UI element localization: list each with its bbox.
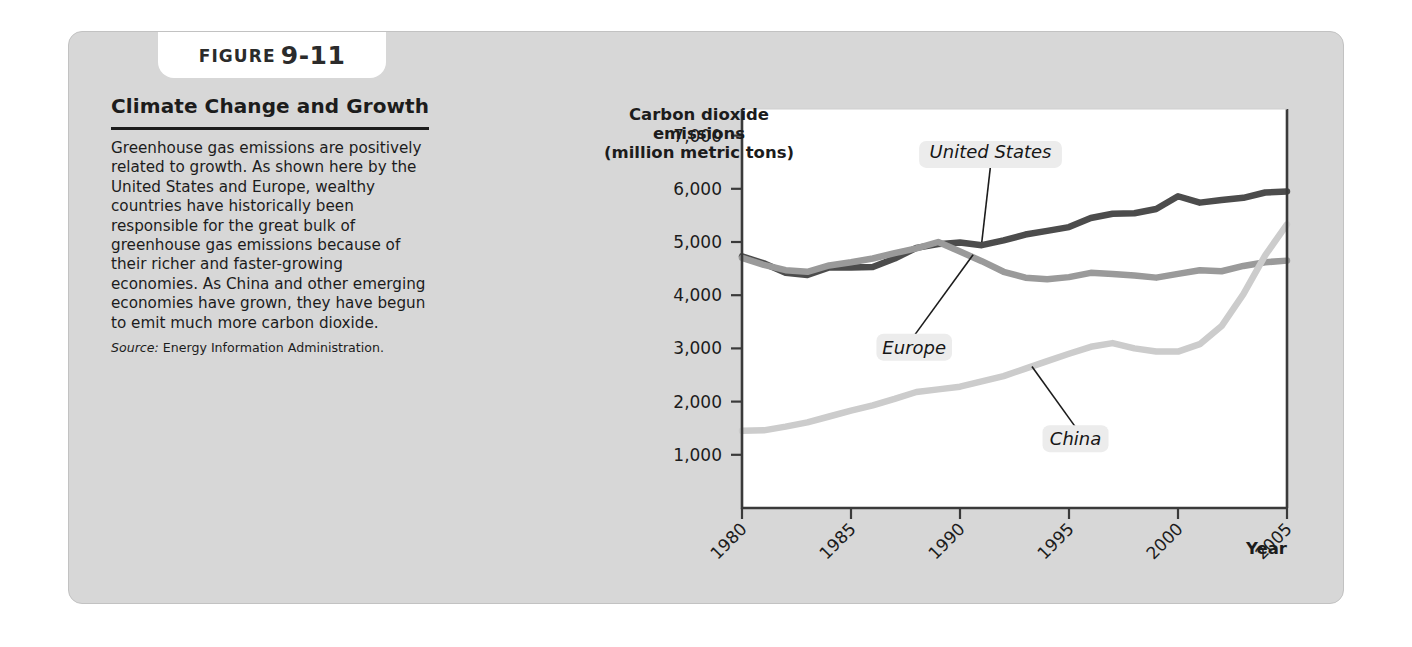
annotation-label-united-states: United States xyxy=(930,141,1052,162)
figure-card: FIGURE 9-11 Climate Change and Growth Gr… xyxy=(68,31,1344,604)
y-tick-label: 7,000 xyxy=(673,126,722,146)
figure-text-column: Climate Change and Growth Greenhouse gas… xyxy=(111,94,431,355)
y-axis-title-line: (million metric tons) xyxy=(604,143,794,162)
annotation-box-europe xyxy=(876,334,952,361)
x-tick-label: 1985 xyxy=(815,519,860,564)
y-tick-label: 3,000 xyxy=(673,338,722,358)
series-line-china xyxy=(742,224,1287,430)
x-tick-label: 1990 xyxy=(924,519,969,564)
y-axis-ticks: 1,0002,0003,0004,0005,0006,0007,000 xyxy=(673,126,742,465)
leader-line-united-states xyxy=(982,166,991,242)
x-tick-label: 2000 xyxy=(1142,519,1187,564)
figure-number-label: FIGURE 9-11 xyxy=(158,41,386,70)
plot-background xyxy=(742,109,1287,508)
axes-group xyxy=(742,109,1287,508)
y-tick-label: 2,000 xyxy=(673,392,722,412)
page-title: Climate Change and Growth xyxy=(111,94,431,118)
y-axis-title-line: Carbon dioxide xyxy=(629,105,769,124)
y-tick-label: 4,000 xyxy=(673,285,722,305)
y-tick-label: 5,000 xyxy=(673,232,722,252)
y-tick-label: 1,000 xyxy=(673,445,722,465)
figure-word: FIGURE xyxy=(199,46,276,66)
y-axis-title-line: emissions xyxy=(653,124,745,143)
annotation-box-united-states xyxy=(919,141,1062,168)
figure-number: 9-11 xyxy=(281,41,346,70)
y-axis-title: Carbon dioxideemissions(million metric t… xyxy=(604,105,794,162)
title-divider xyxy=(111,127,429,130)
annotation-label-europe: Europe xyxy=(882,337,946,358)
leader-line-europe xyxy=(914,255,973,336)
source-label: Source: xyxy=(111,340,159,355)
leader-line-china xyxy=(1032,366,1076,427)
x-tick-label: 1995 xyxy=(1033,519,1078,564)
x-axis-ticks: 198019851990199520002005 xyxy=(706,508,1296,563)
y-tick-label: 6,000 xyxy=(673,179,722,199)
axis-lines xyxy=(742,109,1287,508)
source-text: Energy Information Administration. xyxy=(163,340,384,355)
x-axis-title: Year xyxy=(1245,539,1288,558)
annotation-box-china xyxy=(1043,425,1109,452)
annotation-label-china: China xyxy=(1050,428,1101,449)
series-group xyxy=(742,191,1287,430)
series-annotations: United StatesEuropeChina xyxy=(876,141,1108,452)
x-tick-label: 1980 xyxy=(706,519,751,564)
x-tick-label: 2005 xyxy=(1251,519,1296,564)
series-line-united-states xyxy=(742,191,1287,275)
figure-number-tab: FIGURE 9-11 xyxy=(158,32,386,78)
series-line-europe xyxy=(742,242,1287,279)
source-note: Source: Energy Information Administratio… xyxy=(111,340,431,355)
figure-description: Greenhouse gas emissions are positively … xyxy=(111,139,431,333)
